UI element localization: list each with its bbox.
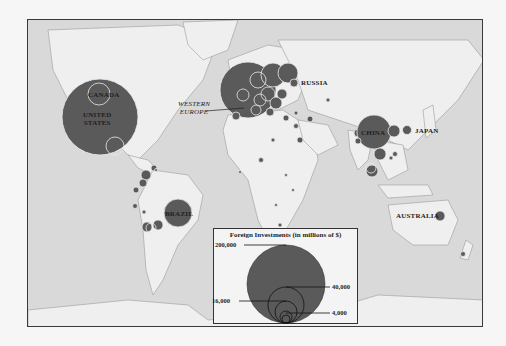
label-united-states-line1: UNITED bbox=[83, 111, 111, 119]
label-united-states: UNITED STATES bbox=[83, 111, 111, 127]
legend-tick-4000: 4,000 bbox=[332, 309, 347, 316]
label-canada: CANADA bbox=[88, 91, 120, 99]
label-western-europe-line1: WESTERN bbox=[178, 100, 210, 108]
label-australia: AUSTRALIA bbox=[396, 212, 439, 220]
label-russia: RUSSIA bbox=[301, 79, 328, 87]
circle-russia bbox=[290, 79, 298, 87]
label-western-europe-line2: EUROPE bbox=[178, 108, 210, 116]
label-western-europe: WESTERN EUROPE bbox=[178, 100, 210, 116]
world-map: CANADA UNITED STATES WESTERN EUROPE RUSS… bbox=[27, 19, 483, 327]
label-japan: JAPAN bbox=[415, 127, 438, 135]
legend: Foreign Investments (in millions of $) 2… bbox=[213, 228, 358, 324]
legend-tick-40000: 40,000 bbox=[332, 283, 350, 290]
legend-tick-200000: 200,000 bbox=[215, 241, 236, 248]
label-united-states-line2: STATES bbox=[83, 119, 111, 127]
circle-japan bbox=[403, 126, 412, 135]
label-china: CHINA bbox=[361, 129, 385, 137]
legend-tick-16000: 16,000 bbox=[212, 297, 230, 304]
label-brazil: BRAZIL bbox=[165, 210, 193, 218]
